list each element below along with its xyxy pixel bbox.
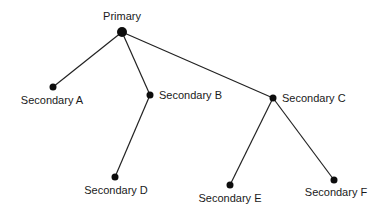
node-secondary-a: Secondary A — [21, 84, 84, 107]
node-primary: Primary — [103, 10, 141, 37]
node-dot — [270, 95, 277, 102]
edges — [53, 32, 334, 185]
node-label: Secondary E — [199, 192, 262, 204]
node-label: Secondary D — [84, 184, 148, 196]
node-dot — [331, 177, 338, 184]
edge-c-f — [273, 98, 334, 180]
node-dot — [227, 182, 234, 189]
node-secondary-e: Secondary E — [199, 182, 262, 205]
node-dot — [147, 92, 154, 99]
node-label: Primary — [103, 10, 141, 22]
node-secondary-c: Secondary C — [270, 92, 346, 104]
node-label: Secondary F — [305, 186, 368, 198]
node-label: Secondary A — [21, 94, 84, 106]
node-secondary-f: Secondary F — [305, 177, 368, 199]
node-label: Secondary B — [159, 89, 222, 101]
edge-primary-a — [53, 32, 122, 87]
node-secondary-d: Secondary D — [84, 174, 148, 197]
node-dot — [50, 84, 57, 91]
node-label: Secondary C — [282, 92, 346, 104]
edge-c-e — [230, 98, 273, 185]
edge-primary-b — [122, 32, 150, 95]
node-secondary-b: Secondary B — [147, 89, 222, 101]
tree-diagram: Primary Secondary A Secondary B Secondar… — [0, 0, 382, 216]
node-dot — [117, 27, 127, 37]
edge-b-d — [115, 95, 150, 177]
node-dot — [112, 174, 119, 181]
